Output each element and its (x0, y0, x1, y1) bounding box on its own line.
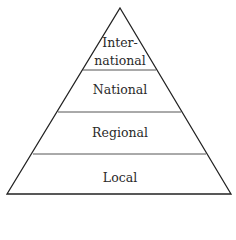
level-local-label: Local (70, 169, 170, 187)
level-international-line1: Inter- (90, 34, 150, 52)
level-international-label: Inter- national (90, 34, 150, 70)
level-national-label: National (70, 81, 170, 99)
level-international-line2: national (90, 52, 150, 70)
level-regional-label: Regional (70, 124, 170, 142)
